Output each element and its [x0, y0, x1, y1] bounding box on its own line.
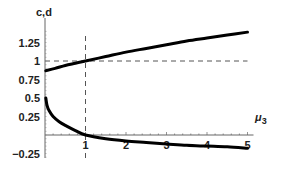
axes — [45, 18, 254, 158]
curve-c — [46, 32, 248, 70]
y-tick-label: 1 — [34, 55, 40, 67]
x-tick-label: 1 — [82, 139, 88, 151]
y-tick-label: 0.75 — [19, 74, 40, 86]
y-tick-label: 0.5 — [25, 92, 40, 104]
curve-d — [46, 98, 248, 148]
y-tick-label: −0.25 — [12, 148, 40, 160]
y-tick-label: 1.25 — [19, 37, 40, 49]
chart: −0.250.250.50.7511.2512345 c,d μ3 — [0, 0, 284, 170]
x-axis-label: μ3 — [254, 111, 267, 126]
data-curves — [46, 32, 248, 148]
y-axis-label: c,d — [36, 6, 52, 18]
y-tick-label: 0.25 — [19, 111, 40, 123]
